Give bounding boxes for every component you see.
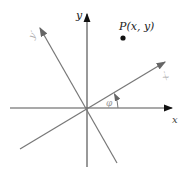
point-label: P(x, y) <box>118 20 154 33</box>
y-prime-axis <box>40 28 117 163</box>
x-axis-label: x <box>172 114 178 125</box>
angle-arc <box>115 94 119 108</box>
y-prime-axis-label: y′ <box>26 29 39 41</box>
y-axis-label: y <box>75 9 83 22</box>
x-prime-axis <box>20 62 165 149</box>
point-p <box>120 35 125 40</box>
x-prime-axis-label: x′ <box>160 70 172 81</box>
rotated-axes-diagram: y x y′ x′ φ P(x, y) <box>0 0 190 175</box>
angle-label: φ <box>106 98 113 108</box>
